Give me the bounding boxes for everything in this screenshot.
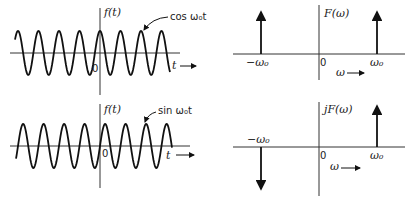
- origin-label: 0: [320, 57, 326, 68]
- x-axis-label: ω: [330, 160, 339, 173]
- x-axis-label: ω: [336, 66, 345, 79]
- y-axis-label: f(t): [103, 6, 121, 19]
- curve-label: cos ω₀t: [170, 11, 206, 22]
- cos-spectrum-plot: F(ω) −ω₀ 0 ω₀ ω: [233, 5, 405, 80]
- pointer-arrow-icon: [144, 17, 168, 30]
- origin-label: 0: [320, 150, 326, 161]
- y-axis-label: F(ω): [323, 7, 349, 20]
- tick-neg-w0: −ω₀: [246, 56, 269, 69]
- cos-time-plot: f(t) 0 t cos ω₀t: [10, 6, 206, 95]
- sin-spectrum-plot: jF(ω) −ω₀ 0 ω₀ ω: [233, 102, 405, 196]
- x-axis-label: t: [166, 149, 171, 162]
- curve-label: sin ω₀t: [158, 105, 192, 116]
- origin-label: 0: [92, 63, 98, 74]
- y-axis-label: f(t): [103, 103, 121, 116]
- tick-pos-w0: ω₀: [370, 149, 384, 162]
- x-axis-label: t: [172, 59, 177, 72]
- tick-pos-w0: ω₀: [370, 56, 384, 69]
- y-axis-label: jF(ω): [321, 103, 353, 116]
- sin-time-plot: f(t) 0 t sin ω₀t: [10, 103, 194, 188]
- tick-neg-w0: −ω₀: [247, 133, 270, 146]
- fourier-pair-diagram: f(t) 0 t cos ω₀t f(t) 0 t sin ω₀t F(ω) −…: [0, 0, 414, 198]
- origin-label: 0: [102, 148, 108, 159]
- pointer-arrow-icon: [145, 112, 156, 122]
